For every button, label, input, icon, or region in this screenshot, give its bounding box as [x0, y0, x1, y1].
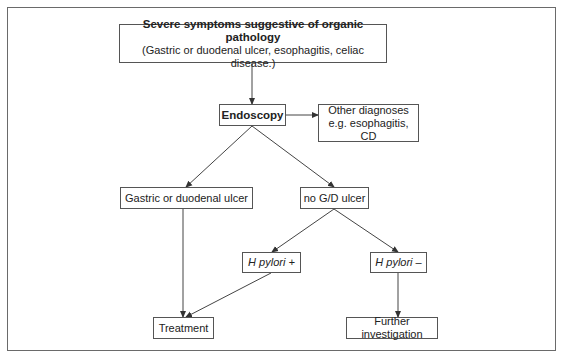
node-severe-symptoms-subtitle: (Gastric or duodenal ulcer, esophagitis,… — [120, 44, 386, 70]
node-h-pylori-positive: H pylori + — [242, 252, 301, 273]
node-gastric-duodenal-ulcer: Gastric or duodenal ulcer — [120, 187, 253, 209]
node-endoscopy-label: Endoscopy — [222, 109, 284, 122]
node-h-pylori-negative: H pylori – — [370, 252, 427, 273]
node-no-gd-ulcer-label: no G/D ulcer — [304, 192, 366, 205]
node-treatment-label: Treatment — [159, 322, 209, 335]
node-h-pylori-positive-label: H pylori + — [248, 256, 295, 269]
node-endoscopy: Endoscopy — [219, 104, 286, 126]
node-gastric-duodenal-ulcer-label: Gastric or duodenal ulcer — [125, 192, 248, 205]
edge-noulcer-hppos — [272, 209, 334, 252]
node-other-diagnoses-line1: Other diagnoses — [328, 104, 409, 117]
node-severe-symptoms: Severe symptoms suggestive of organic pa… — [119, 24, 387, 63]
node-other-diagnoses: Other diagnoses e.g. esophagitis, CD — [318, 104, 419, 142]
node-other-diagnoses-line2: e.g. esophagitis, CD — [319, 117, 418, 143]
edge-noulcer-hpneg — [334, 209, 398, 252]
node-further-investigation-label: Further investigation — [347, 315, 437, 341]
node-h-pylori-negative-label: H pylori – — [375, 256, 421, 269]
edge-hppos-treatment — [186, 273, 271, 317]
node-severe-symptoms-title: Severe symptoms suggestive of organic pa… — [120, 18, 386, 44]
node-further-investigation: Further investigation — [346, 317, 438, 339]
node-treatment: Treatment — [153, 317, 214, 339]
node-no-gd-ulcer: no G/D ulcer — [300, 187, 369, 209]
edge-endoscopy-ulcer — [186, 126, 252, 187]
